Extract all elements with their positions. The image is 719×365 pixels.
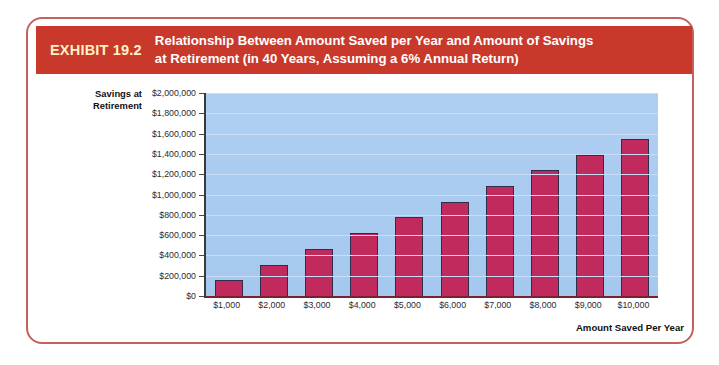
x-axis-tick-label: $9,000 (575, 300, 602, 310)
gridline (206, 195, 658, 196)
exhibit-title-line-1: Relationship Between Amount Saved per Ye… (155, 32, 692, 50)
x-axis-tick-label: $8,000 (530, 300, 557, 310)
y-axis-tick-labels: $0$200,000$400,000$600,000$800,000$1,000… (142, 80, 200, 296)
y-axis-tick-label: $1,400,000 (140, 149, 196, 159)
exhibit-title-line-2: at Retirement (in 40 Years, Assuming a 6… (155, 50, 692, 68)
bar-chart: Savings at Retirement $0$200,000$400,000… (36, 80, 692, 340)
exhibit-header-banner: EXHIBIT 19.2 Relationship Between Amount… (36, 26, 692, 74)
gridline (206, 154, 658, 155)
y-axis-title-line-1: Savings at (80, 88, 142, 100)
y-axis-tick-label: $600,000 (140, 230, 196, 240)
y-axis-title: Savings at Retirement (80, 88, 142, 112)
x-axis-tick-label: $7,000 (484, 300, 511, 310)
bar (350, 233, 378, 296)
bar (395, 217, 423, 296)
y-axis-tick-label: $1,800,000 (140, 108, 196, 118)
gridline (206, 255, 658, 256)
gridline (206, 215, 658, 216)
y-axis-tick-mark (199, 276, 204, 277)
x-axis-tick-label: $1,000 (213, 300, 240, 310)
x-axis-tick-labels: $1,000$2,000$3,000$4,000$5,000$6,000$7,0… (204, 300, 656, 316)
gridline (206, 134, 658, 135)
y-axis-tick-mark (199, 174, 204, 175)
bar (486, 186, 514, 296)
y-axis-tick-label: $800,000 (140, 210, 196, 220)
bar (531, 170, 559, 296)
exhibit-title: Relationship Between Amount Saved per Ye… (155, 32, 692, 67)
x-axis-tick-label: $10,000 (617, 300, 649, 310)
y-axis-tick-mark (199, 113, 204, 114)
y-axis-tick-label: $1,600,000 (140, 129, 196, 139)
y-axis-tick-label: $0 (140, 291, 196, 301)
y-axis-title-line-2: Retirement (80, 100, 142, 112)
y-axis-tick-mark (199, 93, 204, 94)
gridline (206, 113, 658, 114)
y-axis-tick-mark (199, 235, 204, 236)
plot-area (204, 93, 658, 298)
bar (215, 280, 243, 296)
gridline (206, 174, 658, 175)
y-axis-tick-mark (199, 195, 204, 196)
bar (441, 202, 469, 296)
y-axis-tick-mark (199, 134, 204, 135)
gridline (206, 235, 658, 236)
gridline (206, 276, 658, 277)
y-axis-tick-mark (199, 255, 204, 256)
y-axis-tick-mark (199, 215, 204, 216)
bar (260, 265, 288, 296)
y-axis-tick-label: $200,000 (140, 271, 196, 281)
x-axis-tick-label: $4,000 (349, 300, 376, 310)
x-axis-tick-label: $2,000 (258, 300, 285, 310)
exhibit-number-label: EXHIBIT 19.2 (50, 42, 142, 58)
y-axis-tick-label: $400,000 (140, 250, 196, 260)
y-axis-tick-mark (199, 154, 204, 155)
x-axis-tick-label: $3,000 (304, 300, 331, 310)
y-axis-tick-label: $2,000,000 (140, 88, 196, 98)
x-axis-tick-label: $5,000 (394, 300, 421, 310)
y-axis-tick-mark (199, 296, 204, 297)
y-axis-tick-label: $1,000,000 (140, 190, 196, 200)
x-axis-tick-label: $6,000 (439, 300, 466, 310)
gridline (206, 93, 658, 94)
x-axis-title: Amount Saved Per Year (576, 322, 684, 333)
bar (621, 139, 649, 296)
y-axis-tick-label: $1,200,000 (140, 169, 196, 179)
